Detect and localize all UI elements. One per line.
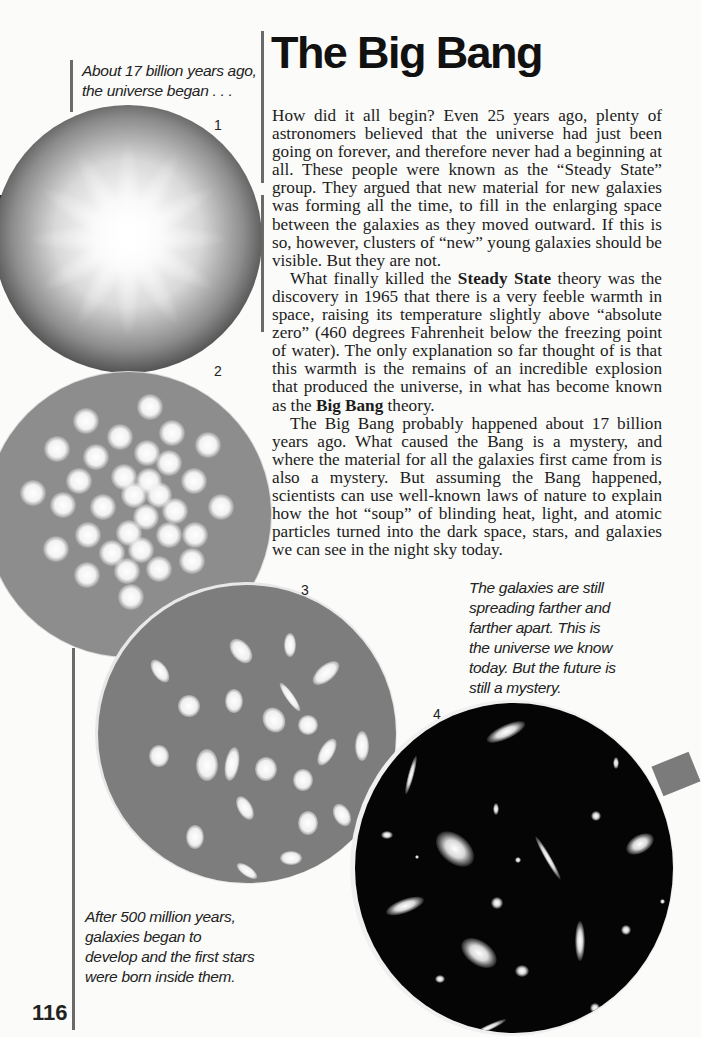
caption-right-middle: The galaxies are still spreading farther… [469, 578, 619, 698]
text-rule-2 [261, 195, 264, 332]
paragraph-2: What finally killed the Steady State the… [272, 270, 662, 415]
caption-bottom-left: After 500 million years, galaxies began … [85, 907, 257, 987]
page-number: 116 [32, 1000, 68, 1026]
article-body: How did it all begin? Even 25 years ago,… [272, 107, 662, 559]
caption-top-left: About 17 billion years ago, the universe… [82, 61, 257, 101]
figure-4-galaxies-today [355, 703, 673, 1033]
paragraph-1: How did it all begin? Even 25 years ago,… [272, 107, 662, 270]
caption-rule-top [70, 60, 73, 112]
figure-number-4: 4 [433, 706, 441, 722]
figure-3-young-galaxies [98, 585, 396, 883]
paragraph-3: The Big Bang probably happened about 17 … [272, 415, 662, 560]
edge-tab-right [651, 752, 700, 797]
figure-1-early-universe [0, 105, 262, 373]
term-steady-state: Steady State [458, 269, 551, 288]
page-title: The Big Bang [271, 27, 542, 79]
caption-rule-bottom [72, 648, 75, 1030]
text-rule-1 [261, 31, 264, 183]
term-big-bang: Big Bang [316, 396, 383, 415]
figure-number-2: 2 [214, 363, 222, 379]
figure-number-3: 3 [301, 582, 309, 598]
figure-number-1: 1 [214, 117, 222, 133]
